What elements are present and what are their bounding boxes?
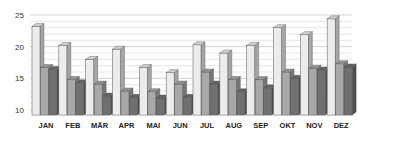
bar: [220, 53, 228, 115]
bar: [317, 70, 325, 115]
bar-chart: 10152025JANFEBMÄRAPRMAIJUNJULAUGSEPOKTNO…: [0, 0, 398, 146]
y-tick-label: 25: [15, 11, 24, 20]
bar: [210, 84, 218, 115]
bar-group-aug: [220, 50, 249, 115]
x-tick-label: JUN: [173, 121, 188, 130]
bar: [183, 97, 191, 115]
bar: [130, 97, 138, 115]
bar: [327, 19, 335, 115]
bar: [76, 83, 84, 115]
x-tick-label: SEP: [253, 121, 268, 130]
bar: [41, 68, 49, 116]
bar: [121, 91, 129, 115]
bar-group-mär: [86, 56, 115, 115]
x-tick-label: MAI: [146, 121, 160, 130]
x-tick-label: DEZ: [334, 121, 349, 130]
x-tick-label: OKT: [280, 121, 296, 130]
y-tick-label: 15: [15, 74, 24, 83]
bar-group-dez: [327, 16, 356, 115]
bar: [59, 45, 67, 115]
bar: [193, 45, 201, 115]
x-tick-label: AUG: [225, 121, 242, 130]
bar: [264, 88, 272, 115]
x-tick-label: MÄR: [91, 121, 109, 130]
bar: [49, 69, 57, 115]
bar: [237, 92, 245, 115]
bar: [255, 80, 263, 115]
bar: [309, 68, 317, 115]
bar: [67, 80, 75, 115]
bar: [175, 84, 183, 115]
bar: [344, 67, 352, 115]
bar-group-okt: [274, 25, 303, 115]
bar: [86, 59, 94, 115]
bar: [94, 84, 102, 115]
bar-group-nov: [300, 32, 329, 115]
bar: [228, 80, 236, 115]
x-tick-label: APR: [119, 121, 135, 130]
bar: [336, 64, 344, 115]
bar: [282, 72, 290, 115]
bar: [247, 45, 255, 115]
y-tick-label: 20: [15, 43, 24, 52]
bar-group-jan: [32, 23, 61, 115]
x-tick-label: FEB: [65, 121, 81, 130]
bar: [274, 28, 282, 115]
bar: [300, 35, 308, 115]
x-tick-label: NOV: [306, 121, 322, 130]
bar: [103, 96, 111, 115]
bar: [202, 72, 210, 115]
bar: [148, 92, 156, 115]
bar: [32, 26, 40, 115]
bar: [156, 98, 164, 115]
bar: [166, 73, 174, 115]
x-tick-label: JAN: [38, 121, 53, 130]
y-tick-label: 10: [15, 106, 24, 115]
chart-canvas: 10152025JANFEBMÄRAPRMAIJUNJULAUGSEPOKTNO…: [0, 0, 398, 146]
bar: [113, 49, 121, 115]
bar-group-jun: [166, 70, 195, 115]
x-tick-label: JUL: [200, 121, 215, 130]
bar: [291, 78, 299, 115]
bar-group-apr: [113, 46, 142, 115]
bar: [139, 68, 147, 116]
